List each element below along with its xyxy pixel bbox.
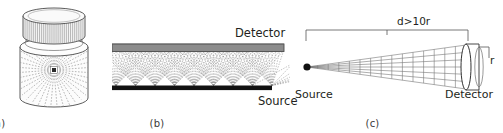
source-bar-icon xyxy=(112,86,272,91)
vial-cap-icon xyxy=(23,8,85,44)
disc-detector-icon xyxy=(461,44,483,90)
panel-a-caption: (a) xyxy=(0,118,54,129)
ray-fan-icon xyxy=(112,52,290,86)
panel-b-caption: (b) xyxy=(68,118,246,129)
panel-b: Detector Source (b) xyxy=(112,0,290,133)
panel-c: d>10r Source Detector r (c) xyxy=(290,0,503,133)
detector-label: Detector xyxy=(445,88,493,101)
panel-c-caption: (c) xyxy=(266,118,479,129)
panel-a-graphic xyxy=(0,0,112,133)
panel-a: (a) xyxy=(0,0,112,133)
distance-label: d>10r xyxy=(397,15,430,27)
radius-label: r xyxy=(490,54,494,66)
source-label: Source xyxy=(295,88,333,101)
point-source-icon xyxy=(51,67,58,74)
ray-cone xyxy=(307,45,466,89)
dimension-bracket-icon xyxy=(306,30,468,41)
panel-b-graphic xyxy=(112,0,290,133)
detector-label: Detector xyxy=(235,26,285,40)
point-source-icon xyxy=(303,63,310,70)
figure-container: (a) Detector Source (b) xyxy=(0,0,503,133)
detector-bar-icon xyxy=(112,44,284,52)
